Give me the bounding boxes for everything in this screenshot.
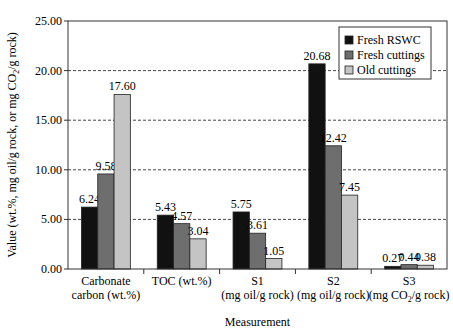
value-label: 17.60 (109, 79, 136, 93)
y-tick-label: 15.00 (35, 113, 62, 127)
bar-fresh-rswc (157, 215, 173, 269)
value-label: 1.05 (263, 244, 284, 258)
x-category-label: carbon (wt.%) (72, 288, 141, 302)
bars: 6.249.5817.605.434.573.045.753.611.0520.… (79, 49, 436, 269)
bar-fresh-rswc (81, 207, 97, 269)
x-category-label: (mg oil/g rock) (297, 288, 370, 302)
value-label: 0.38 (415, 250, 436, 264)
legend-label: Old cuttings (357, 63, 416, 77)
bar-fresh-cuttings (325, 146, 341, 269)
legend: Fresh RSWCFresh cuttingsOld cuttings (339, 27, 431, 79)
value-label: 3.04 (188, 224, 209, 238)
x-category-label: S1 (251, 274, 264, 288)
value-label: 7.45 (339, 180, 360, 194)
bar-old-cuttings (114, 94, 130, 269)
bar-old-cuttings (190, 239, 206, 269)
bar-fresh-cuttings (98, 174, 114, 269)
x-category-label: S3 (403, 274, 416, 288)
value-label: 9.58 (95, 159, 116, 173)
value-label: 4.57 (171, 209, 192, 223)
bar-fresh-rswc (309, 64, 325, 269)
value-label: 12.42 (320, 131, 347, 145)
legend-swatch (345, 66, 353, 74)
y-tick-label: 20.00 (35, 64, 62, 78)
value-label: 3.61 (247, 218, 268, 232)
value-label: 5.75 (231, 197, 252, 211)
y-tick-label: 5.00 (41, 212, 62, 226)
x-category-label: (mg oil/g rock) (221, 288, 294, 302)
bar-old-cuttings (266, 259, 282, 269)
legend-label: Fresh RSWC (357, 33, 421, 47)
value-label: 6.24 (79, 192, 100, 206)
bar-fresh-cuttings (401, 265, 417, 269)
y-tick-label: 10.00 (35, 163, 62, 177)
x-axis-title: Measurement (225, 315, 291, 329)
bar-chart: 0.005.0010.0015.0020.0025.00Carbonatecar… (0, 0, 453, 332)
value-label: 20.68 (304, 49, 331, 63)
y-tick-label: 25.00 (35, 14, 62, 28)
x-category-label: (mg CO2/g rock) (369, 288, 450, 304)
legend-swatch (345, 51, 353, 59)
bar-old-cuttings (341, 195, 357, 269)
bar-old-cuttings (417, 265, 433, 269)
x-category-label: TOC (wt.%) (152, 274, 212, 288)
y-axis-title: Value (wt.%, mg oil/g rock, or mg CO2/g … (5, 32, 21, 258)
y-tick-label: 0.00 (41, 262, 62, 276)
legend-swatch (345, 36, 353, 44)
x-category-label: S2 (327, 274, 340, 288)
x-category-label: Carbonate (81, 274, 130, 288)
legend-label: Fresh cuttings (357, 48, 425, 62)
